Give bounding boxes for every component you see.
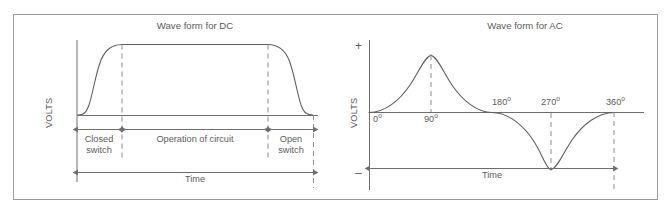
ac-title: Wave form for AC bbox=[455, 20, 595, 32]
ac-tick-value-360: 360 bbox=[606, 97, 621, 107]
ac-y-axis-label: VOLTS bbox=[349, 98, 361, 128]
ac-tick-label-90deg: 90o bbox=[424, 114, 438, 126]
ac-tick-unit-0: o bbox=[378, 112, 382, 119]
dc-segment-open-switch-line2: switch bbox=[267, 145, 315, 157]
ac-negative-sign: – bbox=[355, 168, 362, 180]
ac-tick-unit-180: o bbox=[507, 95, 511, 102]
dc-segment-closed-switch-line1: Closed bbox=[73, 134, 125, 146]
ac-tick-value-180: 180 bbox=[492, 97, 507, 107]
dc-panel-graphics bbox=[77, 40, 318, 188]
dc-segment-operation-label: Operation of circuit bbox=[125, 134, 265, 146]
dc-segment-open-switch-line1: Open bbox=[267, 134, 315, 146]
ac-tick-label-360deg: 360o bbox=[606, 97, 625, 109]
diagram-vector-layer bbox=[0, 0, 672, 212]
dc-x-axis-label: Time bbox=[140, 174, 250, 186]
ac-tick-unit-360: o bbox=[621, 95, 625, 102]
ac-tick-value-270: 270 bbox=[541, 97, 556, 107]
ac-panel-graphics bbox=[369, 40, 644, 190]
dc-y-axis-label: VOLTS bbox=[44, 98, 56, 128]
dc-title: Wave form for DC bbox=[125, 20, 265, 32]
ac-tick-label-0deg: 0o bbox=[373, 114, 382, 126]
waveform-diagram: Wave form for DC VOLTS Closed switch Ope… bbox=[0, 0, 672, 212]
dc-waveform-curve bbox=[78, 45, 313, 116]
ac-tick-label-180deg: 180o bbox=[492, 97, 511, 109]
ac-tick-label-270deg: 270o bbox=[541, 97, 560, 109]
ac-tick-unit-270: o bbox=[556, 95, 560, 102]
ac-x-axis-label: Time bbox=[437, 170, 547, 182]
ac-tick-value-90: 90 bbox=[424, 114, 434, 124]
dc-segment-closed-switch-line2: switch bbox=[73, 145, 125, 157]
ac-positive-sign: + bbox=[355, 41, 362, 53]
ac-tick-unit-90: o bbox=[434, 112, 438, 119]
